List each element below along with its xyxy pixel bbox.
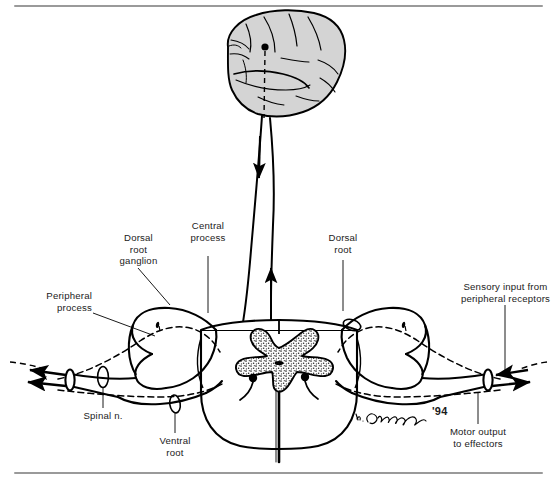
signature-year: '94	[432, 406, 472, 418]
figure-root: Dorsal root ganglion Central process Dor…	[0, 0, 557, 483]
sensory-in-left-arrow	[30, 370, 66, 375]
label-motor-output-line2: to effectors	[424, 438, 532, 450]
label-sensory-input: Sensory input from peripheral receptors	[437, 281, 557, 304]
label-spinal-nerve: Spinal n.	[53, 410, 153, 422]
peripheral-field-left-dashed	[10, 362, 46, 369]
peripheral-field-right-dashed	[520, 362, 547, 369]
sensory-in-right-arrow	[496, 370, 528, 375]
peripheral-process-left-dashed	[58, 327, 220, 379]
label-dorsal-root-line1: Dorsal	[293, 232, 393, 244]
motor-out-left-arrow	[28, 382, 66, 386]
spinal-nerve-right-cut-end	[483, 370, 492, 391]
leader-peripheral-process	[93, 313, 155, 336]
signature-stroke	[357, 414, 426, 425]
label-motor-output: Motor output to effectors	[424, 426, 532, 449]
ventral-horn-motor-neuron-right	[301, 373, 309, 381]
ventral-root-left-band	[169, 394, 182, 413]
ventral-horn-motor-neuron-left	[249, 374, 257, 382]
label-peripheral-process: Peripheral process	[0, 290, 92, 313]
label-dorsal-root-ganglion-line2: root	[76, 244, 201, 256]
cerebrum-outline	[228, 10, 345, 116]
label-central-process-line2: process	[158, 232, 258, 244]
label-sensory-input-line2: peripheral receptors	[437, 293, 557, 305]
label-dorsal-root-line2: root	[293, 244, 393, 256]
ascending-sensory-tract	[270, 118, 274, 330]
peripheral-process-right-dashed	[338, 327, 500, 379]
label-central-process: Central process	[158, 220, 258, 243]
label-dorsal-root-ganglion-line3: ganglion	[76, 255, 201, 267]
dorsal-root-ganglion-right-lower	[392, 354, 423, 389]
spinal-nerve-right-lower	[440, 386, 488, 397]
label-ventral-root-line2: root	[125, 447, 225, 459]
label-dorsal-root: Dorsal root	[293, 232, 393, 255]
spinal-nerve-left-lower	[70, 386, 118, 397]
right-nerve-complex	[334, 308, 547, 404]
left-nerve-complex	[10, 308, 224, 414]
label-sensory-input-line1: Sensory input from	[437, 281, 557, 293]
label-ventral-root-line1: Ventral	[125, 435, 225, 447]
label-peripheral-process-line2: process	[0, 302, 92, 314]
label-motor-output-line1: Motor output	[424, 426, 532, 438]
cortical-neuron-soma	[261, 43, 268, 50]
spinal-nerve-left-cut-end	[65, 370, 74, 391]
label-peripheral-process-line1: Peripheral	[0, 290, 92, 302]
dorsal-root-ganglion-left-lower	[135, 354, 166, 389]
central-canal	[275, 361, 284, 365]
label-central-process-line1: Central	[158, 220, 258, 232]
cerebrum	[228, 10, 345, 118]
motor-out-right-arrow	[492, 382, 530, 386]
leader-dorsal-root-ganglion	[138, 268, 170, 305]
spinal-nerve-right-upper	[422, 374, 488, 379]
ganglion-soma-stalk-right	[405, 326, 406, 331]
label-spinal-nerve-line1: Spinal n.	[53, 410, 153, 422]
descending-arrow	[259, 136, 260, 178]
spinal-nerve-left-upper	[70, 374, 136, 379]
label-ventral-root: Ventral root	[125, 435, 225, 458]
artist-signature-mark	[356, 414, 426, 425]
